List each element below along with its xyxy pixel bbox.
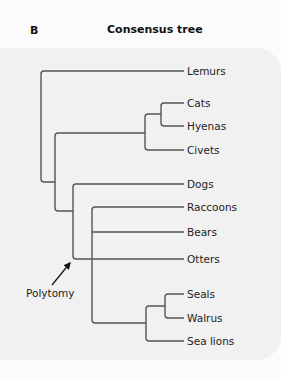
taxon-label: Hyenas (187, 120, 226, 132)
taxon-label: Otters (187, 253, 220, 265)
taxon-label: Raccoons (187, 201, 237, 213)
taxon-label: Bears (187, 226, 217, 238)
polytomy-label: Polytomy (26, 287, 75, 299)
taxon-label: Sea lions (187, 335, 234, 347)
polytomy-arrow-icon (52, 263, 70, 285)
taxon-label: Cats (187, 97, 210, 109)
branch-arctoid (92, 207, 184, 323)
branch-carnivora (55, 133, 145, 211)
branch-cats-hyenas (161, 103, 184, 126)
taxon-label: Walrus (187, 312, 223, 324)
consensus-tree: Lemurs Cats Hyenas Civets Dogs Raccoons … (0, 0, 281, 378)
branch-seals-walrus (165, 294, 184, 318)
branch-polytomy-node (73, 184, 184, 259)
taxon-label: Civets (187, 144, 220, 156)
taxon-label: Lemurs (187, 65, 226, 77)
taxon-label: Dogs (187, 178, 214, 190)
taxon-label: Seals (187, 288, 215, 300)
branch-feliformia (145, 114, 184, 150)
